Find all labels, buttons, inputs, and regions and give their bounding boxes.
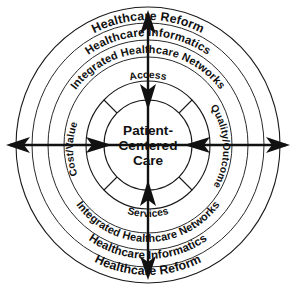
patient-centered-care-diagram: Healthcare Reform Healthcare Informatics…: [0, 0, 295, 286]
center-line-2: Centered: [119, 138, 178, 153]
sector-label-cost-value: Cost/Value: [64, 120, 80, 178]
concentric-rings-figure: Healthcare Reform Healthcare Informatics…: [0, 0, 295, 286]
sector-divider-bottom-left: [104, 177, 117, 190]
center-line-1: Patient-: [123, 123, 173, 138]
sector-divider-top-right: [179, 100, 192, 113]
center-line-3: Care: [133, 153, 164, 168]
sector-divider-bottom-right: [179, 177, 192, 190]
center-core-label: Patient- Centered Care: [119, 123, 178, 168]
sector-divider-top-left: [104, 100, 117, 113]
